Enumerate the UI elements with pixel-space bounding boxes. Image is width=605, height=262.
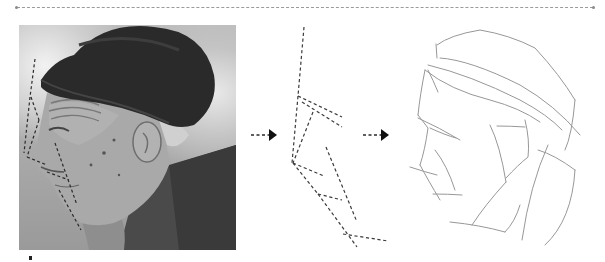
pencil-sketch xyxy=(0,0,605,262)
caption-marker xyxy=(29,256,32,260)
